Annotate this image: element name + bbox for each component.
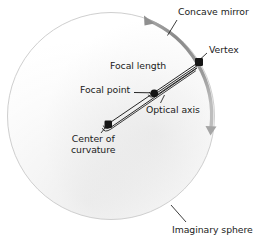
label-concave-mirror: Concave mirror — [178, 6, 249, 17]
vertex-point-marker — [195, 58, 203, 66]
label-center-of-curvature: Center ofcurvature — [71, 133, 115, 155]
diagram-canvas — [0, 0, 260, 243]
focal-point-marker — [151, 90, 159, 98]
label-vertex: Vertex — [209, 44, 239, 55]
optics-diagram-figure: Concave mirror Vertex Focal length Focal… — [0, 0, 260, 243]
label-center-of-curvature-line1: Center of — [72, 133, 115, 144]
label-focal-length: Focal length — [110, 60, 166, 71]
label-center-of-curvature-line2: curvature — [71, 144, 115, 155]
vertex-leader-line — [201, 53, 207, 59]
label-imaginary-sphere: Imaginary sphere — [172, 224, 253, 235]
imaginary-sphere-leader-line — [171, 205, 186, 222]
label-focal-point: Focal point — [80, 84, 130, 95]
label-optical-axis: Optical axis — [146, 104, 200, 115]
